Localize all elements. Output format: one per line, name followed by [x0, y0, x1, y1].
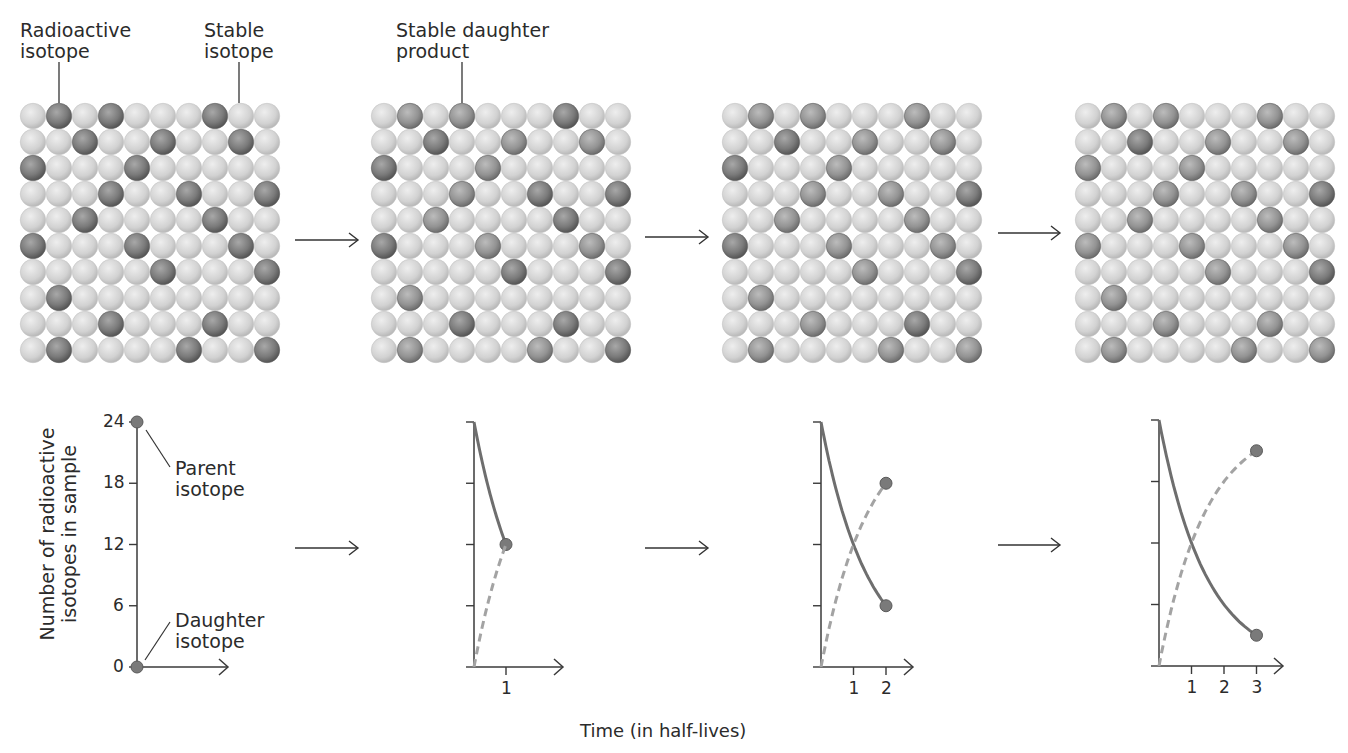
radioactive-isotope-sphere — [98, 103, 123, 128]
radioactive-isotope-sphere — [904, 311, 929, 336]
stable-isotope-sphere — [852, 155, 877, 180]
x-tick-label: 3 — [1252, 678, 1263, 696]
isotope-grid-panel-0 — [20, 103, 279, 362]
stable-isotope-sphere — [20, 181, 45, 206]
radioactive-isotope-sphere — [371, 155, 396, 180]
stable-isotope-sphere — [722, 285, 747, 310]
daughter-endpoint-marker — [131, 661, 143, 673]
radioactive-isotope-sphere — [605, 259, 630, 284]
stable-isotope-sphere — [878, 103, 903, 128]
stable-isotope-sphere — [124, 285, 149, 310]
stable-isotope-sphere — [202, 129, 227, 154]
stable-isotope-sphere — [124, 103, 149, 128]
stable-isotope-sphere — [1283, 311, 1308, 336]
daughter-product-sphere — [1231, 181, 1256, 206]
stable-isotope-sphere — [605, 155, 630, 180]
stable-isotope-sphere — [605, 233, 630, 258]
stable-isotope-sphere — [475, 103, 500, 128]
y-tick-label: 18 — [103, 473, 125, 491]
stable-isotope-sphere — [1257, 155, 1282, 180]
stable-isotope-sphere — [930, 155, 955, 180]
stable-isotope-sphere — [904, 337, 929, 362]
stable-isotope-sphere — [748, 181, 773, 206]
stable-isotope-sphere — [878, 285, 903, 310]
stable-isotope-sphere — [722, 337, 747, 362]
stable-isotope-sphere — [98, 285, 123, 310]
stable-isotope-sphere — [150, 207, 175, 232]
daughter-product-sphere — [1101, 103, 1126, 128]
stable-isotope-sphere — [501, 207, 526, 232]
stable-isotope-sphere — [527, 259, 552, 284]
radioactive-isotope-sphere — [98, 311, 123, 336]
y-tick-label: 0 — [113, 657, 124, 675]
stable-isotope-sphere — [605, 129, 630, 154]
stable-isotope-sphere — [553, 285, 578, 310]
arrow-right-icon — [295, 233, 358, 247]
stable-isotope-sphere — [72, 337, 97, 362]
parent-isotope-curve — [821, 422, 886, 606]
daughter-product-sphere — [1231, 337, 1256, 362]
stable-isotope-sphere — [501, 311, 526, 336]
daughter-product-sphere — [800, 311, 825, 336]
stable-isotope-sphere — [1205, 155, 1230, 180]
daughter-product-sphere — [1101, 285, 1126, 310]
x-tick-label: 2 — [1219, 678, 1230, 696]
stable-isotope-sphere — [501, 181, 526, 206]
stable-isotope-sphere — [423, 311, 448, 336]
stable-isotope-sphere — [1283, 337, 1308, 362]
stable-isotope-sphere — [826, 337, 851, 362]
stable-isotope-sphere — [46, 155, 71, 180]
stable-isotope-sphere — [1231, 285, 1256, 310]
stable-isotope-sphere — [878, 155, 903, 180]
radioactive-isotope-sphere — [72, 207, 97, 232]
stable-isotope-sphere — [826, 311, 851, 336]
stable-isotope-sphere — [774, 181, 799, 206]
stable-isotope-sphere — [423, 337, 448, 362]
radioactive-isotope-sphere — [150, 259, 175, 284]
daughter-product-sphere — [774, 207, 799, 232]
stable-isotope-sphere — [1127, 103, 1152, 128]
stable-isotope-sphere — [371, 285, 396, 310]
stable-isotope-sphere — [176, 233, 201, 258]
daughter-product-sphere — [800, 181, 825, 206]
radioactive-isotope-sphere — [254, 337, 279, 362]
stable-isotope-sphere — [124, 181, 149, 206]
stable-isotope-sphere — [800, 285, 825, 310]
stable-isotope-sphere — [228, 103, 253, 128]
stable-isotope-sphere — [774, 103, 799, 128]
stable-isotope-sphere — [371, 337, 396, 362]
stable-isotope-sphere — [449, 233, 474, 258]
daughter-product-sphere — [852, 259, 877, 284]
stable-isotope-sphere — [254, 103, 279, 128]
stable-isotope-sphere — [852, 337, 877, 362]
y-axis-label: Number of radioactive isotopes in sample — [36, 414, 80, 654]
stable-isotope-sphere — [826, 259, 851, 284]
stable-isotope-sphere — [748, 155, 773, 180]
stable-isotope-sphere — [1257, 129, 1282, 154]
stable-isotope-sphere — [20, 337, 45, 362]
stable-isotope-sphere — [579, 103, 604, 128]
stable-isotope-sphere — [579, 181, 604, 206]
stable-isotope-sphere — [397, 207, 422, 232]
stable-isotope-sphere — [956, 233, 981, 258]
stable-isotope-sphere — [527, 207, 552, 232]
stable-isotope-sphere — [722, 259, 747, 284]
stable-isotope-sphere — [800, 155, 825, 180]
stable-isotope-sphere — [1309, 207, 1334, 232]
stable-isotope-sphere — [449, 155, 474, 180]
stable-isotope-sphere — [878, 129, 903, 154]
stable-isotope-sphere — [956, 155, 981, 180]
daughter-product-sphere — [1257, 311, 1282, 336]
radioactive-isotope-sphere — [722, 233, 747, 258]
stable-isotope-sphere — [527, 285, 552, 310]
radioactive-isotope-sphere — [98, 181, 123, 206]
stable-isotope-sphere — [553, 259, 578, 284]
stable-isotope-sphere — [228, 181, 253, 206]
daughter-product-sphere — [1257, 207, 1282, 232]
stable-isotope-sphere — [501, 337, 526, 362]
daughter-product-sphere — [1283, 129, 1308, 154]
stable-isotope-sphere — [722, 207, 747, 232]
stable-isotope-sphere — [202, 155, 227, 180]
stable-isotope-sphere — [371, 311, 396, 336]
stable-isotope-sphere — [501, 103, 526, 128]
